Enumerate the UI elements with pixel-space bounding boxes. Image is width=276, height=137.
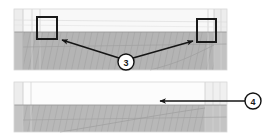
upper-left-ground-strip [14,32,23,70]
callout-4-label: 4 [250,97,255,107]
upper-left-margin-strip [14,9,23,32]
lower-left-ground-strip [14,105,23,132]
callout-4[interactable]: 4 [245,93,261,109]
callout-3[interactable]: 3 [118,54,134,70]
lower-right-ground-strip [205,105,227,132]
lower-left-margin-strip [14,82,23,105]
figure-canvas: 3 4 [0,0,276,137]
drawing-svg: 3 4 [0,0,276,137]
callout-3-label: 3 [123,58,128,68]
lower-elevation-view [14,82,227,132]
